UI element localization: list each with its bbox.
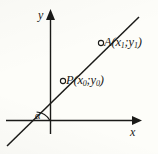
point-label-A-coord-y-sub: 1: [134, 41, 138, 50]
point-label-A: A(x1;y1): [104, 36, 142, 49]
point-label-A-close-paren: ): [138, 35, 142, 49]
y-axis-arrowhead-icon: [46, 9, 55, 20]
point-label-P-close-paren: ): [100, 73, 104, 87]
point-label-P-coord-x-sub: 0: [83, 79, 87, 88]
y-axis-label: y: [38, 9, 43, 21]
point-marker-P: [60, 78, 65, 83]
angle-label-alpha: α: [35, 111, 40, 121]
point-label-A-coord-x-sub: 1: [121, 41, 125, 50]
point-label-P: P(x0;y0): [66, 74, 104, 87]
point-label-A-coord-x: x: [115, 35, 120, 49]
point-label-P-coord-x: x: [77, 73, 82, 87]
y-axis: [46, 9, 55, 134]
coordinate-system-figure: A(x1;y1) P(x0;y0) y x α: [0, 0, 158, 154]
x-axis-label: x: [130, 126, 135, 138]
x-axis: [6, 116, 142, 125]
x-axis-arrowhead-icon: [132, 116, 142, 125]
point-label-P-coord-y-sub: 0: [96, 79, 100, 88]
point-marker-A: [98, 40, 103, 45]
